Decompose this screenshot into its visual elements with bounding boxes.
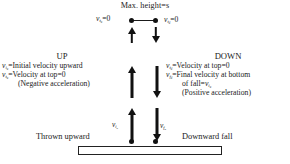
max-height-label: Max. height=s (0, 2, 290, 11)
bottom-left-velocity-label: viu (112, 121, 118, 130)
thrown-upward-caption: Thrown upward (36, 133, 90, 142)
up-line-1-text: =Initial velocity upward (8, 61, 82, 70)
velocity-subscript-main: iu (115, 124, 118, 129)
lower-up-arrow-icon (126, 108, 138, 141)
apex-right-velocity-label: vtd=0 (164, 16, 178, 25)
down-line-3-text: of fall= (182, 79, 205, 88)
down-line-4: (Positive acceleration) (166, 89, 290, 97)
up-line-3: (Negative acceleration) (2, 80, 124, 88)
ground-dot-right (153, 139, 158, 144)
down-line-2-text: =Final velocity at bottom (172, 70, 250, 79)
apex-dot-left (129, 18, 134, 23)
down-section-body: vtd=Velocity at top=0 vfd=Final velocity… (166, 62, 290, 97)
down-line-4-text: (Positive acceleration) (182, 88, 251, 97)
up-section-body: viu=Initial velocity upward vtu=Velocity… (2, 62, 124, 88)
up-section-heading: UP (0, 52, 124, 61)
apex-left-velocity-label: vtu=0 (96, 15, 110, 24)
down-line-1-text: =Velocity at top=0 (172, 61, 229, 70)
ground-dot-left (129, 139, 134, 144)
bottom-right-velocity-label: vfd (160, 122, 166, 131)
mid-up-arrow-icon (126, 66, 138, 98)
velocity-subscript-secondary: u (117, 126, 118, 130)
apex-up-arrow-icon (126, 27, 137, 43)
velocity-subscript-secondary: d (165, 127, 166, 131)
downward-fall-caption: Downward fall (182, 133, 232, 142)
ground-bar (78, 146, 222, 155)
apex-down-arrow-icon (150, 27, 161, 43)
velocity-subscript-main: fd (163, 125, 166, 130)
up-line-2-text: =Velocity at top=0 (8, 70, 65, 79)
apex-dot-right (153, 18, 158, 23)
projectile-motion-diagram: Max. height=s vtu=0 vtd=0 UP viu=Initial… (0, 0, 290, 164)
up-line-3-text: (Negative acceleration) (18, 79, 90, 88)
down-section-heading: DOWN (166, 52, 290, 61)
mid-down-arrow-icon (151, 66, 163, 98)
velocity-equals: =0 (102, 14, 110, 23)
velocity-equals: =0 (170, 15, 178, 24)
